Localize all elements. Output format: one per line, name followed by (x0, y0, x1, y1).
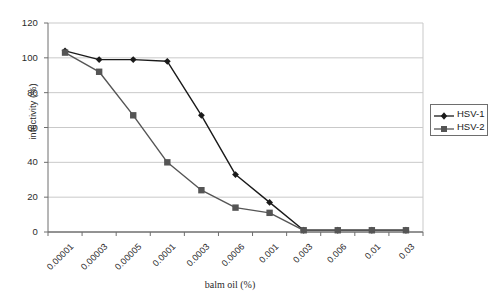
data-point-hsv-2-7 (300, 227, 306, 233)
series-line-hsv-1 (65, 51, 406, 230)
data-series (62, 47, 410, 233)
legend-item-1: HSV-2 (433, 120, 484, 133)
data-point-hsv-1-4 (198, 112, 205, 119)
data-point-hsv-2-8 (335, 227, 341, 233)
y-tick-label-0: 0 (12, 227, 38, 237)
data-point-hsv-2-1 (96, 69, 102, 75)
data-point-hsv-2-0 (62, 49, 68, 55)
legend-label-hsv-1: HSV-1 (455, 108, 484, 119)
legend-item-0: HSV-1 (433, 107, 484, 120)
data-point-hsv-1-1 (96, 56, 103, 63)
y-axis (44, 23, 48, 232)
data-point-hsv-2-6 (266, 210, 272, 216)
data-point-hsv-2-3 (164, 159, 170, 165)
y-tick-label-120: 120 (12, 18, 38, 28)
x-axis-title: balm oil (%) (0, 279, 460, 290)
data-point-hsv-2-2 (130, 112, 136, 118)
data-point-hsv-1-2 (130, 56, 137, 63)
data-point-hsv-2-10 (403, 227, 409, 233)
chart-container: 020406080100120 infectivity (%) 0.000010… (0, 0, 498, 301)
legend-marker-diamond-icon (433, 108, 455, 120)
gridlines (48, 23, 423, 232)
series-line-hsv-2 (65, 53, 406, 231)
x-axis (48, 232, 423, 236)
data-point-hsv-2-9 (369, 227, 375, 233)
data-point-hsv-1-3 (164, 58, 171, 65)
y-tick-label-20: 20 (12, 192, 38, 202)
y-axis-title: infectivity (%) (27, 52, 38, 172)
chart-plot-area (0, 0, 498, 301)
data-point-hsv-2-5 (232, 204, 238, 210)
chart-legend: HSV-1 HSV-2 (430, 104, 488, 136)
legend-label-hsv-2: HSV-2 (455, 121, 484, 132)
legend-marker-square-icon (433, 121, 455, 133)
data-point-hsv-2-4 (198, 187, 204, 193)
